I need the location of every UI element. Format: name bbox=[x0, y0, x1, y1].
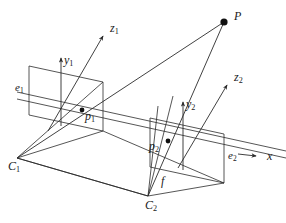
label-epipole-e2: e2 bbox=[228, 150, 237, 163]
label-axis-x: x bbox=[267, 150, 272, 164]
label-epipole-e1: e1 bbox=[15, 82, 24, 95]
label-camera-C1: C1 bbox=[8, 160, 20, 174]
label-axis-z1: z1 bbox=[110, 22, 119, 36]
label-axis-y2: y2 bbox=[186, 98, 195, 112]
label-point-P: P bbox=[234, 10, 241, 24]
label-image-point-p2-sub: 2 bbox=[155, 145, 159, 154]
label-axis-z2: z2 bbox=[234, 71, 243, 85]
diagram-canvas bbox=[0, 0, 286, 223]
label-axis-y1-sub: 1 bbox=[69, 59, 73, 68]
label-point-P-base: P bbox=[234, 9, 241, 23]
label-axis-x-base: x bbox=[267, 149, 272, 163]
image-point-p1-dot bbox=[80, 108, 85, 113]
label-camera-C2-base: C bbox=[145, 198, 153, 212]
baseline-C1-C2 bbox=[17, 158, 148, 196]
label-axis-y2-sub: 2 bbox=[191, 103, 195, 112]
label-axis-z1-sub: 1 bbox=[115, 27, 119, 36]
label-focal-f: f bbox=[161, 175, 164, 189]
image-point-p2-dot bbox=[166, 139, 171, 144]
label-camera-C1-sub: 1 bbox=[16, 165, 20, 174]
scene-point-P-dot bbox=[220, 18, 227, 25]
axis-x-arrow bbox=[238, 154, 256, 156]
label-image-point-p2: p2 bbox=[149, 140, 159, 154]
label-axis-y1: y1 bbox=[64, 54, 73, 68]
label-focal-f-base: f bbox=[161, 174, 164, 188]
label-axis-z2-sub: 2 bbox=[239, 76, 243, 85]
label-epipole-e1-sub: 1 bbox=[20, 86, 24, 95]
label-camera-C2-sub: 2 bbox=[153, 204, 157, 213]
label-camera-C1-base: C bbox=[8, 159, 16, 173]
epipolar-geometry-figure: P z1 y1 z2 y2 x e1 e2 p1 p2 C1 C2 f bbox=[0, 0, 286, 223]
label-image-point-p1: p1 bbox=[85, 110, 95, 124]
label-camera-C2: C2 bbox=[145, 199, 157, 213]
ground-quadrilateral bbox=[17, 131, 224, 196]
label-image-point-p1-sub: 1 bbox=[91, 115, 95, 124]
label-epipole-e2-sub: 2 bbox=[233, 154, 237, 163]
